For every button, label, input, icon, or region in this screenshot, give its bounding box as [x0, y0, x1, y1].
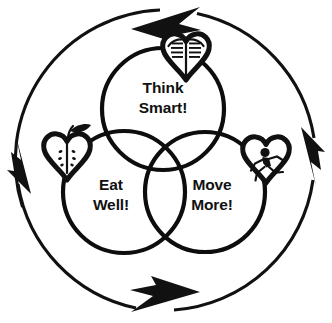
label-think-smart-line2: Smart! — [139, 99, 188, 116]
heart-with-running-figure-icon[interactable] — [243, 137, 290, 183]
label-think-smart-line1: Think — [143, 79, 184, 96]
wellness-cycle-diagram: Think Smart! Eat Well! Move More! — [0, 0, 332, 323]
label-move-more-line1: Move — [192, 176, 232, 193]
label-move-more-line2: More! — [191, 196, 233, 213]
diagram-canvas: Think Smart! Eat Well! Move More! — [0, 0, 332, 323]
label-eat-well-line1: Eat — [99, 176, 123, 193]
heart-with-open-book-icon[interactable] — [163, 34, 210, 80]
runner-head — [260, 148, 269, 157]
heart-shaped-apple-icon[interactable] — [44, 124, 91, 180]
label-eat-well-line2: Well! — [93, 196, 129, 213]
